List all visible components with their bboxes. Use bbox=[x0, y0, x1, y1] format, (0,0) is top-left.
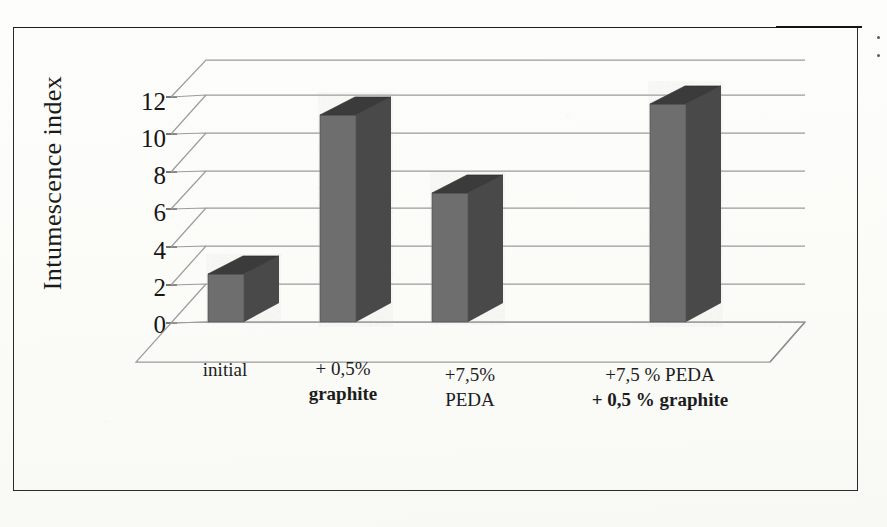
x-label-peda-graphite-line1: +7,5 % PEDA bbox=[530, 362, 790, 387]
x-label-peda-line1: +7,5% bbox=[400, 362, 540, 387]
x-label-graphite-line1: + 0,5% bbox=[268, 356, 418, 381]
bar-graphite-0-5 bbox=[320, 97, 391, 322]
x-label-graphite: + 0,5% graphite bbox=[268, 356, 418, 406]
x-label-graphite-line2: graphite bbox=[268, 381, 418, 406]
bar-peda-7-5 bbox=[432, 175, 503, 322]
x-label-peda-graphite: +7,5 % PEDA + 0,5 % graphite bbox=[530, 362, 790, 412]
bar-initial bbox=[208, 256, 279, 322]
x-label-peda-graphite-line2: + 0,5 % graphite bbox=[530, 387, 790, 412]
chart-floor bbox=[136, 322, 805, 362]
x-label-peda-graphite-line2-text: + 0,5 % graphite bbox=[592, 389, 728, 410]
chart-plot-svg bbox=[0, 0, 887, 527]
bar-peda-plus-graphite bbox=[650, 86, 721, 322]
x-label-peda: +7,5% PEDA bbox=[400, 362, 540, 412]
x-label-peda-line2: PEDA bbox=[400, 387, 540, 412]
intumescence-index-bar-chart: Intumescence index 12 10 8 6 4 2 0 bbox=[0, 0, 887, 527]
